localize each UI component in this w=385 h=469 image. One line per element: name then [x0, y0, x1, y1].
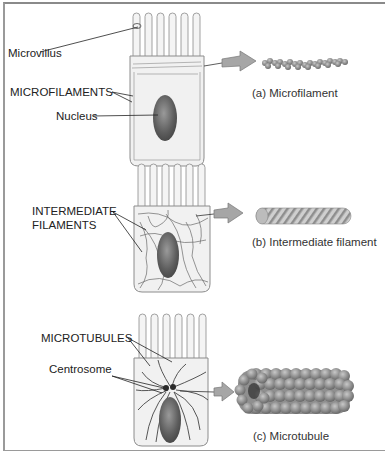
arrow-b [214, 203, 243, 223]
caption-microtubule: (c) Microtubule [253, 430, 329, 442]
cell-b [113, 164, 243, 292]
microtubule-model [235, 368, 355, 414]
label-microtubules: MICROTUBULES [41, 332, 132, 344]
microfilament-model [262, 58, 348, 70]
caption-microfilament: (a) Microfilament [252, 87, 338, 99]
label-nucleus: Nucleus [56, 110, 98, 122]
label-microvillus: Microvillus [8, 47, 62, 59]
arrow-a [222, 51, 256, 71]
label-intermediate-line1: INTERMEDIATE [32, 205, 117, 217]
label-intermediate-line2: FILAMENTS [32, 219, 97, 231]
arrow-c [214, 382, 234, 401]
intermediate-filament-model [256, 208, 351, 224]
caption-intermediate-filament: (b) Intermediate filament [252, 236, 377, 248]
label-centrosome: Centrosome [49, 363, 112, 375]
label-microfilaments: MICROFILAMENTS [10, 86, 113, 98]
